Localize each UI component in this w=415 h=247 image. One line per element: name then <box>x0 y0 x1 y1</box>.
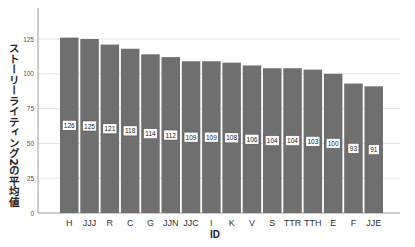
x-axis-title: ID <box>210 229 220 240</box>
x-tick-label: R <box>107 218 114 228</box>
x-tick-label: JJJ <box>83 218 97 228</box>
data-label: 121 <box>104 125 115 132</box>
bar-chart: 0255075100125126H125JJJ121R118C114G112JJ… <box>0 0 415 247</box>
data-label: 91 <box>370 146 378 153</box>
data-label: 109 <box>186 134 197 141</box>
x-tick-label: H <box>66 218 73 228</box>
data-label: 112 <box>166 132 177 139</box>
y-tick-label: 50 <box>27 140 35 147</box>
x-tick-label: C <box>127 218 134 228</box>
x-tick-label: V <box>249 218 255 228</box>
x-tick-label: F <box>351 218 357 228</box>
x-tick-label: TTR <box>284 218 302 228</box>
y-tick-label: 75 <box>27 105 35 112</box>
data-label: 100 <box>328 140 339 147</box>
data-label: 104 <box>287 137 298 144</box>
y-tick-label: 25 <box>27 175 35 182</box>
y-axis-title: ストーリーライティング2の平均値 <box>6 40 22 210</box>
data-label: 118 <box>125 127 136 134</box>
x-tick-label: G <box>147 218 154 228</box>
data-label: 106 <box>247 136 258 143</box>
data-label: 126 <box>64 122 75 129</box>
data-label: 103 <box>307 138 318 145</box>
data-label: 125 <box>84 123 95 130</box>
data-label: 93 <box>350 145 358 152</box>
y-tick-label: 100 <box>23 70 34 77</box>
x-tick-label: JJE <box>366 218 381 228</box>
x-tick-label: I <box>210 218 213 228</box>
x-tick-label: JJC <box>183 218 199 228</box>
x-tick-label: E <box>330 218 336 228</box>
data-label: 114 <box>145 130 156 137</box>
x-tick-label: TTH <box>304 218 322 228</box>
x-tick-label: S <box>269 218 275 228</box>
x-tick-label: K <box>229 218 235 228</box>
x-tick-label: JJN <box>163 218 179 228</box>
data-label: 108 <box>226 134 237 141</box>
data-label: 109 <box>206 134 217 141</box>
data-label: 104 <box>267 137 278 144</box>
y-tick-label: 0 <box>30 210 34 217</box>
y-tick-label: 125 <box>23 36 34 43</box>
